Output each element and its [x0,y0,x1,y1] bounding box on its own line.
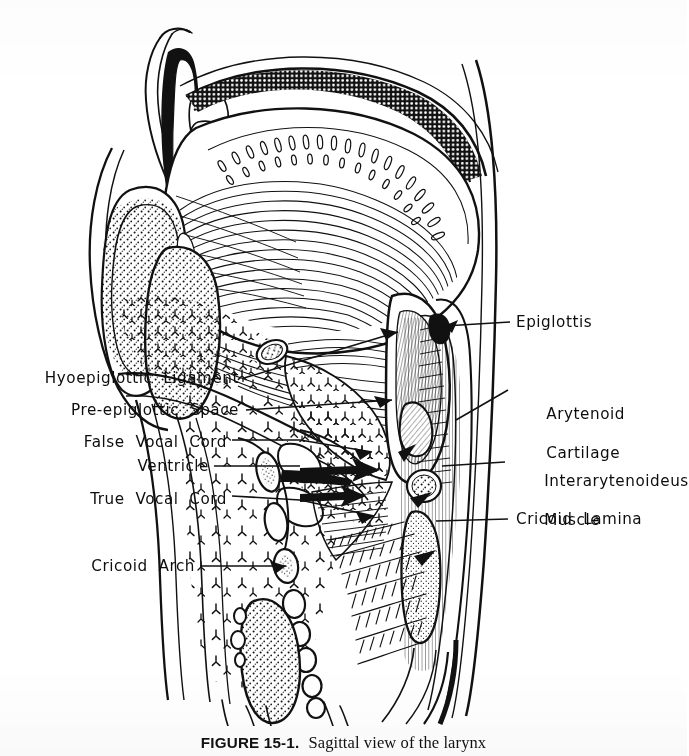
figure-stage: Hyoepiglottic Ligament Pre-epiglottic Sp… [0,0,687,726]
figure-caption-text: Sagittal view of the larynx [299,733,486,752]
sagittal-larynx-illustration [0,0,687,726]
label-epiglottis: Epiglottis [516,313,592,333]
label-interarytenoideus-muscle: Interarytenoideus Muscle [512,452,689,550]
label-arytenoid-cartilage-line1: Arytenoid [546,405,625,423]
label-interarytenoideus-muscle-line1: Interarytenoideus [544,472,689,490]
figure-number: FIGURE 15-1. [201,734,300,751]
label-pre-epiglottic-space: Pre-epiglottic Space [71,401,239,421]
label-ventricle: Ventricle [138,457,209,477]
label-cricoid-arch: Cricoid Arch [91,557,195,577]
label-false-vocal-cord: False Vocal Cord [84,433,227,453]
label-cricoid-lamina: Cricoid Lamina [516,510,642,530]
label-true-vocal-cord: True Vocal Cord [90,490,227,510]
figure-caption: FIGURE 15-1.Sagittal view of the larynx [0,733,687,753]
label-hyoepiglottic-ligament: Hyoepiglottic Ligament [45,369,239,389]
